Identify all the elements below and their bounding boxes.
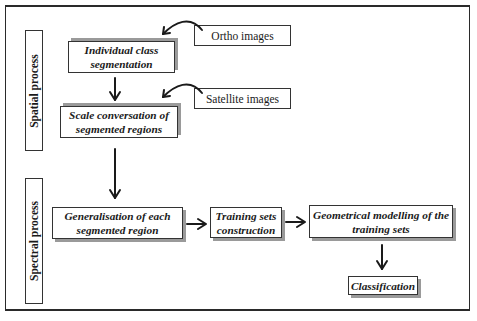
- ortho-curved-arrow: [163, 21, 202, 34]
- satellite-curved-arrow: [163, 84, 202, 97]
- connector-arrows: [0, 0, 477, 321]
